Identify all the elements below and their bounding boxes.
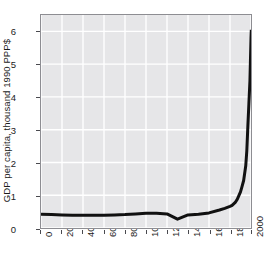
x-tick-label: 800 <box>119 236 131 270</box>
plot-svg <box>41 15 251 228</box>
plot-frame <box>40 14 252 229</box>
x-tick-label: 200 <box>55 236 67 270</box>
x-tick-mark <box>125 230 126 234</box>
x-tick-label: 1600 <box>204 236 216 270</box>
x-tick-mark <box>231 230 232 234</box>
x-tick-label-text: 0 <box>43 232 54 237</box>
y-tick-label: 5 <box>0 58 16 69</box>
x-tick-mark <box>61 230 62 234</box>
x-tick-mark <box>188 230 189 234</box>
x-tick-label: 600 <box>98 236 110 270</box>
x-tick-mark <box>167 230 168 234</box>
x-tick-mark <box>251 230 252 234</box>
plot-area <box>41 15 251 228</box>
chart-figure: GDP per capita, thousand 1990 PPP$ 01234… <box>0 0 268 270</box>
y-tick-label: 0 <box>0 224 16 235</box>
x-tick-mark <box>40 230 41 234</box>
gridlines <box>41 15 251 228</box>
x-tick-label: 2000 <box>245 236 257 270</box>
y-tick-label: 4 <box>0 91 16 102</box>
chart-title-remnant <box>60 0 240 5</box>
x-tick-mark <box>146 230 147 234</box>
y-tick-label: 6 <box>0 25 16 36</box>
y-tick-label: 3 <box>0 124 16 135</box>
x-tick-mark <box>210 230 211 234</box>
x-tick-label: 0 <box>34 236 46 270</box>
y-tick-label: 1 <box>0 190 16 201</box>
x-tick-label: 1000 <box>140 236 152 270</box>
x-tick-label-text: 2000 <box>254 216 265 237</box>
x-tick-label: 1400 <box>182 236 194 270</box>
x-tick-label: 1200 <box>161 236 173 270</box>
x-tick-mark <box>104 230 105 234</box>
x-tick-mark <box>82 230 83 234</box>
y-tick-label: 2 <box>0 157 16 168</box>
x-tick-label: 400 <box>76 236 88 270</box>
x-tick-label: 1800 <box>225 236 237 270</box>
